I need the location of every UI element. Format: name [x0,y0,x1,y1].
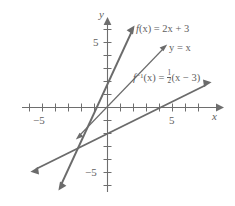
equation-finv-fraction: 12 [167,70,171,86]
equation-label-f-inverse: f−1(x) = 12(x − 3) [133,70,200,86]
x-tick-label-neg5: −5 [33,115,45,126]
fraction-denominator: 2 [167,77,171,85]
x-axis [22,104,224,112]
y-tick-label-neg5: −5 [85,167,97,178]
x-axis-label: x [212,111,217,122]
equation-f-body: (x) = 2x + 3 [139,23,189,34]
curve-f-inverse [30,80,211,175]
equation-finv-mid: (x) = [144,72,167,83]
y-tick-label-5: 5 [93,37,99,48]
curve-identity [76,45,167,140]
equation-finv-exponent: −1 [136,72,144,80]
equation-finv-tail: (x − 3) [172,72,201,83]
plot-canvas [0,0,235,206]
equation-label-f: f(x) = 2x + 3 [136,24,189,35]
x-tick-label-5: 5 [169,115,175,126]
equation-label-identity: y = x [169,43,191,54]
graph-figure: x y −5 5 5 −5 f(x) = 2x + 3 y = x f−1(x)… [0,0,235,206]
y-axis-label: y [99,9,104,20]
fraction-numerator: 1 [167,70,171,77]
